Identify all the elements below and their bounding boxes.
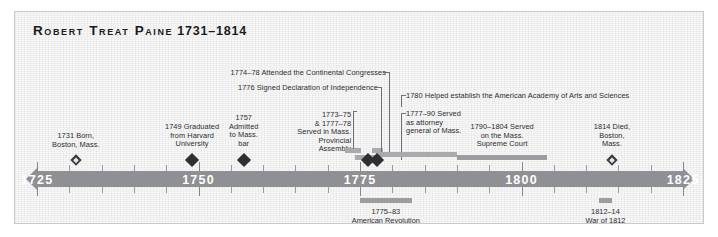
axis-year-label-1775: 1775 — [344, 173, 377, 187]
event-label-academy: 1780 Helped establish the American Acade… — [406, 92, 629, 101]
tick-below-1825 — [683, 187, 684, 196]
era-span-war-of-1812 — [599, 198, 612, 203]
leader-elbow-provincial-assembly — [353, 111, 357, 112]
tick-above-1790 — [457, 165, 458, 171]
tick-above-1750 — [199, 162, 200, 171]
tick-below-1805 — [554, 187, 555, 193]
leader-provincial-assembly — [353, 111, 354, 149]
tick-below-1735 — [102, 187, 103, 193]
event-label-died: 1814 Died, Boston, Mass. — [594, 123, 630, 149]
era-label-war-of-1812: 1812–14 War of 1812 — [585, 208, 625, 224]
tick-below-1725 — [37, 187, 38, 196]
axis-year-label-1825: 1825 — [667, 173, 700, 187]
timeline-axis: 17251750177518001825 — [15, 12, 703, 223]
event-label-declaration: 1776 Signed Declaration of Independence — [238, 84, 378, 93]
tick-above-1810 — [586, 165, 587, 171]
tick-above-1785 — [425, 165, 426, 171]
event-label-continental-congresses: 1774–78 Attended the Continental Congres… — [231, 69, 386, 78]
tick-above-1780 — [392, 165, 393, 171]
tick-below-1745 — [166, 187, 167, 193]
tick-below-1755 — [231, 187, 232, 193]
era-label-american-revolution: 1775–83 American Revolution — [352, 208, 420, 224]
tick-above-1800 — [522, 162, 523, 171]
leader-academy — [401, 95, 402, 107]
event-label-supreme-court: 1790–1804 Served on the Mass. Supreme Co… — [470, 123, 533, 149]
tick-above-1770 — [328, 165, 329, 171]
tick-below-1790 — [457, 187, 458, 193]
event-span-supreme-court — [457, 155, 547, 160]
tick-below-1780 — [392, 187, 393, 193]
leader-continental-congresses — [389, 72, 390, 155]
event-label-bar-admission: 1757 Admitted to Mass. bar — [229, 114, 259, 148]
tick-below-1795 — [489, 187, 490, 193]
tick-above-1760 — [263, 165, 264, 171]
tick-below-1765 — [295, 187, 296, 193]
tick-above-1825 — [683, 162, 684, 171]
axis-year-label-1750: 1750 — [182, 173, 215, 187]
tick-below-1750 — [199, 187, 200, 196]
axis-year-label-1800: 1800 — [505, 173, 538, 187]
tick-below-1810 — [586, 187, 587, 193]
tick-below-1770 — [328, 187, 329, 193]
event-label-provincial-assembly: 1773–75 & 1777–78 Served in Mass. Provin… — [297, 111, 351, 154]
tick-below-1775 — [360, 187, 361, 196]
event-label-born: 1731 Born, Boston, Mass. — [52, 132, 99, 149]
tick-below-1785 — [425, 187, 426, 193]
tick-below-1800 — [522, 187, 523, 196]
tick-above-1740 — [134, 165, 135, 171]
era-span-american-revolution — [360, 198, 412, 203]
tick-above-1820 — [651, 165, 652, 171]
tick-below-1740 — [134, 187, 135, 193]
axis-year-label-1725: 1725 — [21, 173, 54, 187]
tick-below-1815 — [618, 187, 619, 193]
tick-above-1725 — [37, 162, 38, 171]
tick-above-1735 — [102, 165, 103, 171]
event-span-attorney-general — [376, 152, 457, 157]
tick-above-1795 — [489, 165, 490, 171]
tick-above-1730 — [69, 165, 70, 171]
event-label-harvard: 1749 Graduated from Harvard University — [165, 123, 219, 149]
tick-above-1765 — [295, 165, 296, 171]
tick-above-1745 — [166, 165, 167, 171]
tick-below-1820 — [651, 187, 652, 193]
leader-declaration — [381, 87, 382, 156]
tick-below-1760 — [263, 187, 264, 193]
tick-below-1730 — [69, 187, 70, 193]
timeline-panel: Robert Treat Paine1731–1814 172517501775… — [14, 11, 704, 224]
tick-above-1755 — [231, 165, 232, 171]
timeline-stage: Robert Treat Paine1731–1814 172517501775… — [15, 12, 703, 223]
tick-above-1805 — [554, 165, 555, 171]
tick-above-1815 — [618, 165, 619, 171]
tick-above-1775 — [360, 162, 361, 171]
event-label-attorney-general: 1777–90 Served as attorney general of Ma… — [406, 110, 461, 136]
